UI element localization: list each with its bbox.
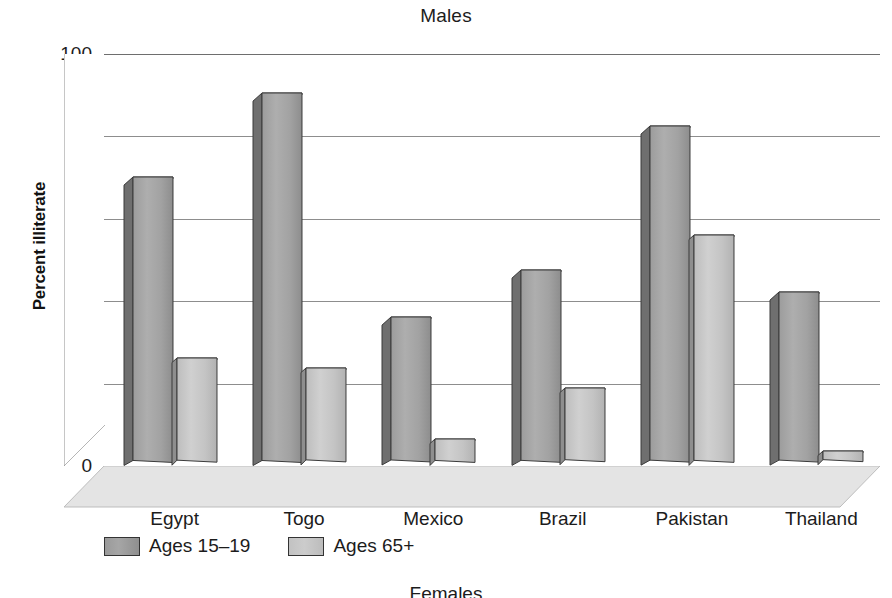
legend-label: Ages 15–19 [149,535,250,557]
bar [689,235,736,466]
bar [172,358,219,466]
x-tick-label-mexico: Mexico [363,508,503,530]
bar [770,292,821,466]
gridline-20 [104,384,880,385]
bar [301,368,348,466]
gridline-60 [104,219,880,220]
legend-item-2[interactable]: Ages 65+ [288,535,414,557]
bar [253,93,304,467]
legend-swatch-icon [288,537,324,556]
legend-swatch-icon [104,537,140,556]
gridline-40 [104,301,880,302]
bar [382,317,433,466]
legend: Ages 15–19Ages 65+ [104,533,442,559]
plot-area [104,54,880,466]
x-tick-label-thailand: Thailand [751,508,891,530]
bar [512,270,563,466]
x-tick-label-egypt: Egypt [105,508,245,530]
next-chart-title: Females [0,583,892,598]
legend-item-1[interactable]: Ages 15–19 [104,535,250,557]
bar [124,177,175,466]
bar [641,126,692,466]
x-tick-label-brazil: Brazil [493,508,633,530]
legend-label: Ages 65+ [333,535,414,557]
axis-depth-wall [64,54,105,466]
x-tick-label-togo: Togo [234,508,374,530]
bar [430,439,477,466]
y-axis-title: Percent illiterate [30,146,50,346]
gridline-100 [104,54,880,55]
bar [560,388,607,466]
chart-floor [64,466,880,508]
chart-title: Males [0,5,892,27]
bar-chart: Males Percent illiterate 100806040200 Eg… [0,0,892,598]
x-tick-label-pakistan: Pakistan [622,508,762,530]
bar [818,451,865,466]
gridline-80 [104,136,880,137]
